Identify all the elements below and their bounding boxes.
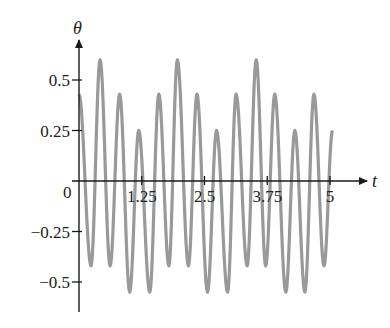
origin-label: 0 [63,183,72,202]
y-tick-label: −0.5 [39,273,70,292]
x-tick-label: 5 [326,187,335,206]
y-axis-label: θ [73,18,82,38]
theta-curve [79,60,333,292]
y-tick-label: −0.25 [31,223,70,242]
y-tick-label: 0.25 [40,122,70,141]
x-tick-label: 1.25 [127,187,157,206]
y-tick-label: 0.5 [49,71,70,90]
x-axis-label: t [372,171,378,191]
x-tick-label: 2.5 [194,187,215,206]
x-tick-label: 3.75 [252,187,282,206]
chart: 1.252.53.755 0.50.25−0.25−0.5 θ t 0 [0,0,390,328]
